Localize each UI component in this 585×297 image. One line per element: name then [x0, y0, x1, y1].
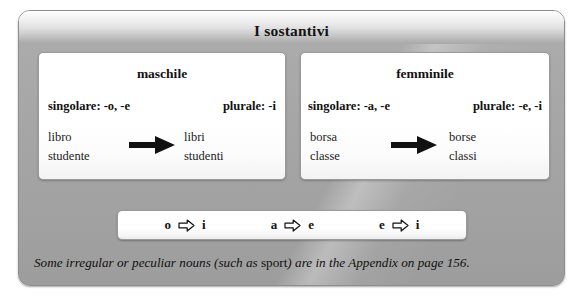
example-word: classi: [449, 147, 477, 166]
ending-pair: o i: [165, 217, 206, 233]
ending-to: i: [202, 217, 206, 233]
gender-box-femminile: femminile singolare: -a, -e plurale: -e,…: [300, 52, 550, 180]
example-word: classe: [310, 147, 340, 166]
footnote-text-start: Some irregular or peculiar nouns (such a…: [34, 255, 261, 270]
plural-examples-maschile: libri studenti: [184, 128, 224, 166]
page-title: I sostantivi: [254, 23, 329, 39]
example-word: borse: [449, 128, 477, 147]
gender-box-maschile-rules: singolare: -o, -e plurale: -i: [39, 99, 285, 114]
ending-from: a: [271, 217, 278, 233]
gender-box-maschile-title: maschile: [39, 66, 285, 82]
footnote: Some irregular or peculiar nouns (such a…: [34, 255, 554, 271]
solid-right-arrow-icon: [391, 136, 437, 154]
gender-box-femminile-rules: singolare: -a, -e plurale: -e, -i: [301, 99, 549, 114]
example-word: borsa: [310, 128, 340, 147]
singular-examples-femminile: borsa classe: [310, 128, 340, 166]
example-word: libri: [184, 128, 224, 147]
ending-to: e: [308, 217, 314, 233]
singular-examples-maschile: libro studente: [48, 128, 90, 166]
ending-pair: e i: [379, 217, 419, 233]
hollow-right-arrow-icon: [284, 219, 301, 232]
example-word: libro: [48, 128, 90, 147]
example-word: studente: [48, 147, 90, 166]
gender-box-femminile-title: femminile: [301, 66, 549, 82]
gender-box-maschile: maschile singolare: -o, -e plurale: -i l…: [38, 52, 286, 180]
ending-to: i: [416, 217, 420, 233]
hollow-right-arrow-icon: [178, 219, 195, 232]
ending-summary-bar: o i a e e i: [117, 210, 467, 240]
title-bar: I sostantivi: [19, 11, 564, 44]
hollow-right-arrow-icon: [392, 219, 409, 232]
plural-rule-maschile: plurale: -i: [223, 99, 276, 114]
footnote-example-word: sport: [261, 255, 287, 270]
solid-right-arrow-icon: [129, 136, 175, 154]
example-word: studenti: [184, 147, 224, 166]
footnote-text-end: ) are in the Appendix on page 156.: [287, 255, 469, 270]
grammar-chart: I sostantivi maschile singolare: -o, -e …: [0, 0, 585, 297]
ending-from: o: [165, 217, 172, 233]
singular-rule-maschile: singolare: -o, -e: [48, 99, 130, 114]
ending-pair: a e: [271, 217, 314, 233]
singular-rule-femminile: singolare: -a, -e: [308, 99, 390, 114]
plural-examples-femminile: borse classi: [449, 128, 477, 166]
ending-from: e: [379, 217, 385, 233]
plural-rule-femminile: plurale: -e, -i: [473, 99, 542, 114]
